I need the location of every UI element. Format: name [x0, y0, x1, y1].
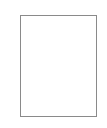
blank-page-outline[interactable] — [20, 15, 97, 117]
page-content-area[interactable] — [21, 16, 96, 116]
document-canvas — [0, 0, 107, 128]
